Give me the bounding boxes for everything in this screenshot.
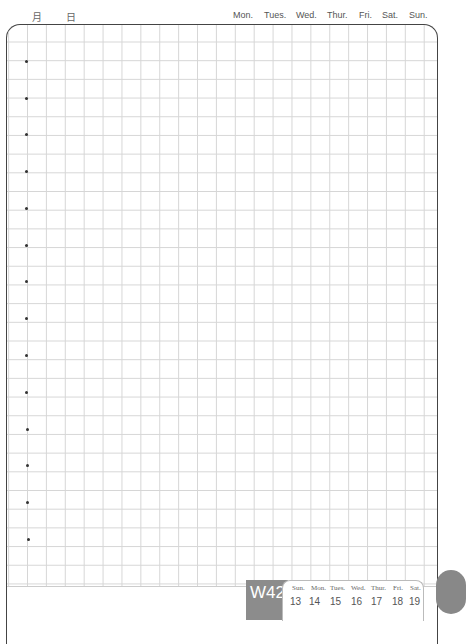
bullet-dot bbox=[25, 170, 28, 173]
weekday-tue: Tues. bbox=[264, 10, 286, 20]
weekday-sat: Sat. bbox=[382, 10, 398, 20]
page-tab-marker bbox=[436, 570, 466, 614]
day-name: Sun. bbox=[292, 584, 305, 592]
bullet-dot bbox=[27, 538, 30, 541]
grid-area[interactable] bbox=[7, 25, 437, 587]
date-number: 18 bbox=[392, 596, 403, 607]
day-name: Mon. bbox=[311, 584, 326, 592]
bullet-dot bbox=[25, 97, 28, 100]
bullet-dot bbox=[25, 280, 28, 283]
weekday-sun: Sun. bbox=[409, 10, 428, 20]
date-number: 19 bbox=[409, 596, 420, 607]
weekday-thu: Thur. bbox=[327, 10, 348, 20]
weekday-mon: Mon. bbox=[233, 10, 253, 20]
day-name: Wed. bbox=[351, 584, 365, 592]
bullet-dot bbox=[25, 207, 28, 210]
date-number: 15 bbox=[330, 596, 341, 607]
bullet-dot bbox=[26, 464, 29, 467]
day-label: 日 bbox=[66, 9, 76, 24]
date-number: 17 bbox=[371, 596, 382, 607]
bullet-dot bbox=[25, 317, 28, 320]
date-number: 16 bbox=[351, 596, 362, 607]
bullet-dot bbox=[25, 244, 28, 247]
mini-calendar: Sun. Mon. Tues. Wed. Thur. Fri. Sat. 13 … bbox=[282, 580, 424, 621]
week-calendar: W42 Sun. Mon. Tues. Wed. Thur. Fri. Sat.… bbox=[246, 558, 426, 618]
bullet-dot bbox=[25, 354, 28, 357]
weekday-wed: Wed. bbox=[296, 10, 317, 20]
bullet-dot bbox=[26, 501, 29, 504]
weekday-fri: Fri. bbox=[359, 10, 372, 20]
day-name: Tues. bbox=[330, 584, 345, 592]
date-number: 14 bbox=[309, 596, 320, 607]
date-number: 13 bbox=[290, 596, 301, 607]
bullet-dot bbox=[25, 60, 28, 63]
bullet-dot bbox=[25, 391, 28, 394]
day-name: Thur. bbox=[371, 584, 386, 592]
notebook-page bbox=[6, 24, 438, 644]
month-label: 月 bbox=[32, 9, 42, 24]
day-name: Fri. bbox=[393, 584, 403, 592]
bullet-dot bbox=[25, 133, 28, 136]
bullet-dot bbox=[26, 428, 29, 431]
day-name: Sat. bbox=[410, 584, 421, 592]
